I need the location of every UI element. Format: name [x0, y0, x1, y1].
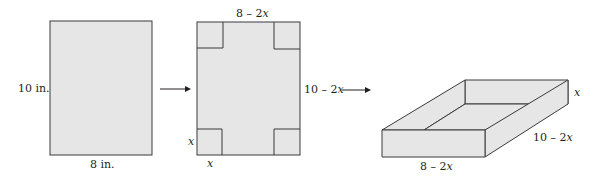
arrow-icon	[342, 87, 371, 93]
sheet-height-label: 10 in.	[18, 82, 50, 95]
cut-sheet	[197, 22, 300, 155]
sheet-width-label: 8 in.	[90, 158, 115, 171]
corner-side-label: x	[188, 135, 195, 148]
open-box-diagram: 10 in. 8 in. 8 – 2x 10 – 2x x x x 10 – 2…	[0, 0, 594, 179]
box-width-label: 8 – 2x	[420, 160, 454, 173]
corner-bottom-label: x	[207, 157, 214, 170]
cut-sheet-top-label: 8 – 2x	[236, 7, 270, 20]
open-box	[382, 80, 568, 157]
box-depth-label: 10 – 2x	[533, 131, 574, 144]
arrow-icon	[160, 86, 191, 92]
cut-sheet-right-label: 10 – 2x	[304, 83, 345, 96]
original-sheet	[50, 21, 152, 155]
box-height-label: x	[574, 86, 581, 99]
